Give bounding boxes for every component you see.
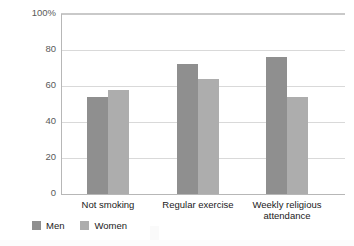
- y-tick-label-0: 0: [2, 187, 56, 198]
- y-tick-label-100: 100%: [2, 7, 56, 18]
- background-watermark-shape: [150, 226, 228, 244]
- x-label-2: Weekly religious attendance: [240, 199, 335, 221]
- bar-men-1: [177, 64, 198, 194]
- bar-men-0: [87, 97, 108, 194]
- legend-label-men: Men: [46, 220, 64, 231]
- legend-label-women: Women: [94, 220, 127, 231]
- x-label-1: Regular exercise: [151, 199, 246, 210]
- x-label-0: Not smoking: [61, 199, 156, 210]
- y-tick-label-20: 20: [2, 151, 56, 162]
- legend-swatch-icon-men: [32, 221, 41, 230]
- plot-area: [61, 14, 345, 194]
- y-tick-label-80: 80: [2, 43, 56, 54]
- legend-swatch-icon-women: [80, 221, 89, 230]
- y-axis-tick-labels: 020406080100%: [0, 0, 56, 246]
- bar-women-2: [287, 97, 308, 194]
- bar-chart: 020406080100% Not smokingRegular exercis…: [0, 0, 354, 246]
- legend-item-women[interactable]: Women: [80, 220, 127, 231]
- bar-women-0: [108, 90, 129, 194]
- bar-women-1: [198, 79, 219, 194]
- y-tick-label-60: 60: [2, 79, 56, 90]
- legend-item-men[interactable]: Men: [32, 220, 64, 231]
- bar-men-2: [266, 57, 287, 194]
- chart-legend: MenWomen: [32, 220, 127, 231]
- y-tick-label-40: 40: [2, 115, 56, 126]
- gridline-0: [61, 194, 345, 195]
